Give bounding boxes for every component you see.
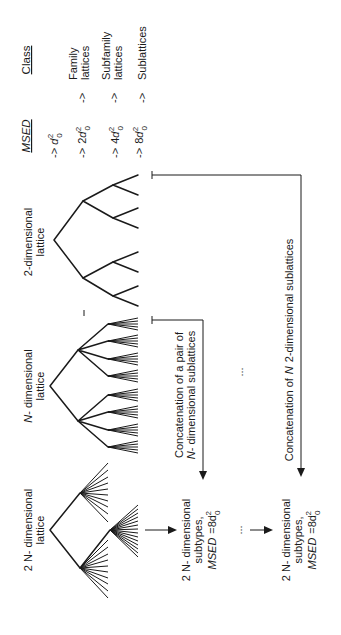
tree-2d-lattice [54,175,138,306]
class-family-label: Family lattices [67,45,91,80]
svg-text:Concatenation of a pair of: Concatenation of a pair of [173,331,185,458]
ellipsis-middle: ... [233,367,245,376]
svg-text:Family: Family [67,47,79,80]
svg-text:lattices: lattices [112,45,124,80]
svg-text:lattices: lattices [79,45,91,80]
class-subfamily-label: Subfamily lattices [100,31,124,80]
class-family-lattices: -> [76,93,88,103]
svg-text:-> d02: -> d02 [46,133,64,158]
msed-header: MSED [20,119,32,152]
svg-text:->: -> [136,93,148,103]
arrow-to-subtypes-1 [145,526,177,534]
arrow-right-icon [168,526,177,534]
svg-text:N- dimensional sublattices: N- dimensional sublattices [185,330,197,459]
svg-text:lattice: lattice [34,228,46,257]
svg-text:MSED=8d02: MSED=8d02 [304,510,322,569]
svg-text:subtypes,: subtypes, [292,516,304,563]
subtypes-label-1: 2 N- dimensional subtypes, MSED=8d02 [180,499,222,582]
svg-text:...: ... [232,525,244,534]
subtypes-label-2: 2 N- dimensional subtypes, MSED=8d02 [280,499,322,582]
tree-2nd-lattice [50,463,138,598]
arrow-down-icon [297,468,305,477]
svg-text:->: -> [108,93,120,103]
msed-level-1: -> d02 [46,133,64,158]
class-header: Class [20,45,32,74]
class-sublattices: -> [136,93,148,103]
lattice-title-nd: N- dimensional lattice [22,349,46,422]
msed-level-3: -> 4d02 [107,126,125,158]
svg-text:Sublattices: Sublattices [136,26,148,80]
svg-text:...: ... [233,367,245,376]
arrow-down-icon [199,471,207,480]
svg-text:2 N- dimensional: 2 N- dimensional [280,499,292,582]
lattice-title-2d: 2-dimensional lattice [22,208,46,276]
svg-text:2-dimensional: 2-dimensional [22,208,34,276]
svg-text:subtypes,: subtypes, [192,516,204,563]
svg-text:->: -> [76,93,88,103]
svg-text:lattice: lattice [34,516,46,545]
svg-text:N- dimensional: N- dimensional [22,349,34,422]
msed-level-2: -> 2d02 [74,126,92,158]
svg-text:lattice: lattice [34,372,46,401]
tree-nd-lattice [50,318,138,453]
svg-text:MSED=8d02: MSED=8d02 [204,510,222,569]
svg-text:Concatenation ofN2-dimensional: Concatenation ofN2-dimensional sublattic… [283,238,295,461]
msed-level-4: -> 8d02 [131,126,149,158]
arrow-to-subtypes-2 [250,526,273,534]
concat-pair-nd-label: Concatenation of a pair of N- dimensiona… [173,330,197,459]
lattice-hierarchy-diagram: Class MSED -> d02 -> 2d02 -> 4d02 -> 8d0… [0,0,341,635]
svg-text:Class: Class [20,45,32,74]
class-subfamily-lattices: -> [108,93,120,103]
lattice-title-2nd: 2 N- dimensional lattice [22,489,46,572]
svg-text:Subfamily: Subfamily [100,31,112,80]
svg-text:2 N- dimensional: 2 N- dimensional [180,499,192,582]
svg-text:-> 4d02: -> 4d02 [107,126,125,158]
class-sublattices-label: Sublattices [136,26,148,80]
svg-text:-> 8d02: -> 8d02 [131,126,149,158]
svg-text:-> 2d02: -> 2d02 [74,126,92,158]
svg-text:2 N- dimensional: 2 N- dimensional [22,489,34,572]
arrow-right-icon [264,526,273,534]
ellipsis-between-subtypes: ... [232,525,244,534]
svg-text:MSED: MSED [20,119,32,152]
concat-n-2d-label: Concatenation ofN2-dimensional sublattic… [283,238,295,461]
